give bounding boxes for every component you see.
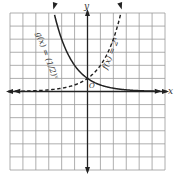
f-curve-arrow-up-icon <box>117 2 122 9</box>
g-label: g(x) = (1/2)x <box>34 30 60 80</box>
exponential-graph: y x O g(x) = (1/2)x f(x) = 2x <box>0 0 180 183</box>
g-curve-arrow-up-icon <box>53 2 58 9</box>
g-curve-arrow-right-icon <box>155 89 162 94</box>
y-axis-arrow-down-icon <box>85 167 90 174</box>
f-label: f(x) = 2x <box>99 36 121 72</box>
svg-text:f(x) = 2x: f(x) = 2x <box>99 36 121 72</box>
x-axis-arrow-left-icon <box>6 89 13 94</box>
y-axis-label: y <box>83 1 90 11</box>
svg-text:g(x) = (1/2)x: g(x) = (1/2)x <box>34 30 60 80</box>
x-axis-label: x <box>168 86 173 96</box>
f-curve-arrow-left-icon <box>13 89 20 94</box>
origin-label: O <box>89 82 95 90</box>
